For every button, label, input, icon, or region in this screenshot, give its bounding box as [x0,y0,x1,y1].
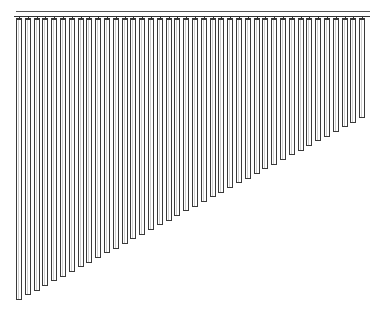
slat-hook-bar [95,18,101,19]
slat-hook-bar [34,18,40,19]
blind-slat [139,19,145,235]
blind-slat [104,19,110,253]
slat-hook-bar [104,18,110,19]
blind-slat [271,19,277,165]
blind-slat [350,19,356,123]
blind-slat [51,19,57,281]
slat-hook-bar [342,18,348,19]
slat-hook-bar [60,18,66,19]
blind-slat [245,19,251,179]
slat-hook-bar [130,18,136,19]
slat-hook-bar [113,18,119,19]
slat-hook-bar [227,18,233,19]
slat-hook-bar [174,18,180,19]
blind-slat [86,19,92,263]
slat-hook-bar [192,18,198,19]
blind-slat [25,19,31,295]
blind-slat [289,19,295,155]
blind-slat [280,19,286,160]
slat-hook-bar [16,18,22,19]
slat-hook-bar [78,18,84,19]
blind-slat [227,19,233,188]
slat-hook-bar [157,18,163,19]
blind-slat [122,19,128,244]
blind-slat [298,19,304,151]
blind-slat [236,19,242,183]
blind-slat [174,19,180,216]
blind-slat [306,19,312,146]
blind-slat [315,19,321,141]
blind-slat [16,19,22,300]
blind-slat [166,19,172,221]
slat-hook-bar [245,18,251,19]
slat-hook-bar [148,18,154,19]
blind-slat [42,19,48,286]
blind-slat [148,19,154,230]
slat-hook-bar [289,18,295,19]
blind-slat [78,19,84,267]
slat-hook-bar [139,18,145,19]
blind-slat [262,19,268,169]
slat-hook-bar [298,18,304,19]
blind-slat [157,19,163,225]
slat-hook-bar [306,18,312,19]
slat-hook-bar [271,18,277,19]
blind-slat [130,19,136,239]
slat-hook-bar [51,18,57,19]
slat-hook-bar [25,18,31,19]
slat-hook-bar [122,18,128,19]
blind-slat [113,19,119,249]
blind-slat [95,19,101,258]
slat-hook-bar [69,18,75,19]
blind-slat [210,19,216,197]
vertical-blinds-drawing [0,0,385,319]
blind-slat [60,19,66,277]
blind-slat [254,19,260,174]
slat-hook-bar [350,18,356,19]
slat-hook-bar [210,18,216,19]
slat-hook-bar [218,18,224,19]
slat-hook-bar [254,18,260,19]
slat-hook-bar [236,18,242,19]
blind-slat [359,19,365,118]
blind-slat [324,19,330,137]
blind-slat [34,19,40,291]
headrail-top-line [16,11,370,12]
blind-slat [342,19,348,127]
headrail-bottom-line [14,16,370,17]
slat-hook-bar [324,18,330,19]
slat-hook-bar [42,18,48,19]
slat-hook-bar [280,18,286,19]
blind-slat [183,19,189,211]
blind-slat [218,19,224,193]
slat-hook-bar [333,18,339,19]
slat-hook-bar [359,18,365,19]
slat-hook-bar [262,18,268,19]
blind-slat [192,19,198,207]
blind-slat [333,19,339,132]
slat-hook-bar [315,18,321,19]
slat-hook-bar [166,18,172,19]
slat-hook-bar [183,18,189,19]
blind-slat [69,19,75,272]
blind-slat [201,19,207,202]
slat-hook-bar [86,18,92,19]
slat-hook-bar [201,18,207,19]
